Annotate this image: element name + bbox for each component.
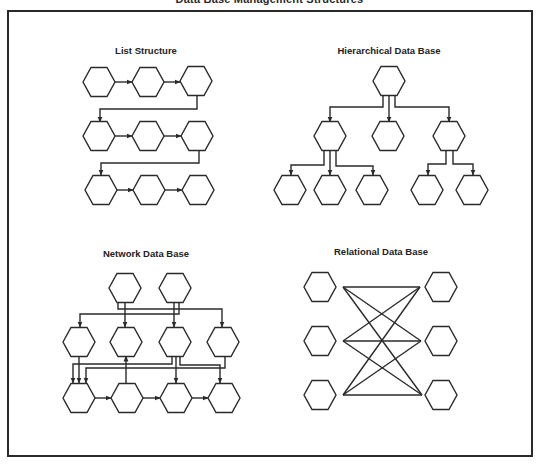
hexagon-node-icon (160, 384, 192, 413)
hexagon-node-icon (181, 122, 213, 151)
hexagon-node-icon (207, 328, 239, 357)
hexagon-node-icon (208, 384, 240, 413)
list-structure-diagram (83, 67, 214, 205)
hexagon-node-icon (111, 384, 143, 413)
hexagon-node-icon (182, 176, 214, 205)
hexagon-node-icon (304, 327, 336, 356)
connector-network (180, 356, 220, 383)
hexagon-node-icon (304, 381, 336, 410)
hexagon-node-icon (373, 67, 405, 96)
connector-hierarchical (395, 95, 449, 122)
connector-network (80, 302, 179, 327)
hexagon-node-icon (411, 176, 443, 205)
hexagon-node-icon (372, 122, 404, 151)
hexagon-node-icon (159, 328, 191, 357)
hexagon-node-icon (356, 176, 388, 205)
hexagon-node-icon (180, 67, 212, 96)
connector-hierarchical (428, 151, 446, 175)
hexagon-node-icon (132, 68, 164, 97)
network-data-base-diagram (63, 274, 240, 413)
connector-hierarchical (330, 95, 383, 122)
hexagon-node-icon (63, 384, 95, 413)
hexagon-node-icon (133, 176, 165, 205)
hexagon-node-icon (304, 273, 336, 302)
hexagon-node-icon (132, 122, 164, 151)
diagram-page: Data Base Management Structures List Str… (0, 0, 539, 466)
hexagon-node-icon (314, 176, 346, 205)
hexagon-node-icon (83, 68, 115, 97)
hexagon-node-icon (425, 381, 457, 410)
connector-hierarchical (453, 151, 473, 175)
connector-hierarchical (336, 151, 373, 175)
connector-network (73, 356, 172, 383)
hexagon-node-icon (456, 176, 488, 205)
hexagon-node-icon (83, 122, 115, 151)
hexagon-node-icon (85, 176, 117, 205)
hexagon-node-icon (109, 274, 141, 303)
connector-network (86, 356, 225, 383)
hexagon-node-icon (110, 328, 142, 357)
hexagon-node-icon (433, 122, 465, 151)
hexagon-node-icon (159, 274, 191, 303)
connector-list (100, 96, 197, 122)
connector-hierarchical (291, 151, 324, 175)
hexagon-node-icon (274, 176, 306, 205)
relational-data-base-diagram (304, 273, 457, 410)
hexagon-node-icon (314, 122, 346, 151)
hexagon-node-icon (63, 328, 95, 357)
diagram-canvas (0, 0, 539, 466)
hierarchical-data-base-diagram (274, 67, 488, 205)
hexagon-node-icon (425, 327, 457, 356)
connector-list (101, 151, 199, 175)
hexagon-node-icon (425, 273, 457, 302)
